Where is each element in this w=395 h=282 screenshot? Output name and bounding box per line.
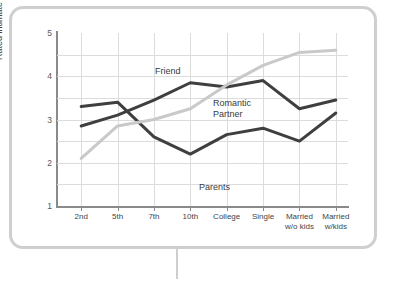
x-tick-mark	[263, 206, 264, 211]
plot-area	[57, 33, 348, 206]
x-tick-mark	[154, 206, 155, 211]
y-axis-title: Rated intimate disclosure	[0, 0, 4, 60]
x-axis-line	[56, 206, 349, 208]
x-tick-mark	[227, 206, 228, 211]
x-tick-mark	[118, 206, 119, 211]
y-tick-label: 2	[40, 158, 52, 168]
x-tick-mark	[299, 206, 300, 211]
x-tick-mark	[81, 206, 82, 211]
y-tick-label: 1	[40, 201, 52, 211]
x-tick-mark	[190, 206, 191, 211]
series-lines	[57, 33, 348, 206]
y-tick-label: 5	[40, 28, 52, 38]
chart-screenshot: Rated intimate disclosure 12345 2nd5th7t…	[0, 0, 395, 282]
series-annotation-label: Romantic Partner	[213, 98, 251, 120]
frame-stem	[176, 249, 178, 279]
y-tick-label: 3	[40, 115, 52, 125]
series-annotation-label: Friend	[155, 66, 181, 77]
y-tick-label: 4	[40, 71, 52, 81]
series-line-parents	[81, 102, 336, 154]
series-annotation-label: Parents	[199, 182, 230, 193]
x-tick-mark	[336, 206, 337, 211]
x-tick-label: Married w/kids	[306, 212, 366, 232]
